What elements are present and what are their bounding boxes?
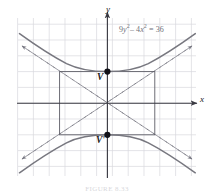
vertex-label-lower: V': [96, 136, 105, 146]
graph-canvas: [0, 0, 214, 194]
vertex-label-upper: V: [97, 73, 103, 83]
hyperbola-figure: x y V V' 9y2– 4x2 = 36 FIGURE 8.33: [0, 0, 214, 194]
upper-vertex-dot: [104, 69, 110, 75]
grid-lines: [18, 18, 196, 176]
axes: [17, 12, 197, 178]
axis-label-x: x: [200, 95, 204, 104]
lower-vertex-dot: [104, 132, 110, 138]
equation-rhs: = 36: [147, 25, 164, 34]
figure-caption: FIGURE 8.33: [0, 185, 214, 193]
axis-label-y: y: [106, 5, 110, 14]
equation-label: 9y2– 4x2 = 36: [119, 26, 164, 34]
